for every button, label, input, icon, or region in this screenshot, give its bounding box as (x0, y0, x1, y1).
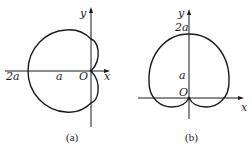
figure-a-caption: (a) (66, 131, 79, 144)
figure-b-origin-dot (188, 97, 191, 100)
figure-a-a-label: a (56, 70, 63, 83)
figure-a-y-arrow-icon (89, 7, 93, 13)
figure-a: y x O 2a a (a) (5, 7, 111, 144)
figure-b-caption: (b) (185, 131, 198, 144)
figure-b-a-label: a (179, 69, 186, 82)
diagram-canvas: y x O 2a a (a) y 2a a O x (b) (0, 0, 252, 154)
figure-b-y-label: y (177, 7, 185, 20)
figure-a-2a-label: 2a (5, 70, 20, 83)
figure-b: y 2a a O x (b) (138, 7, 248, 144)
figure-b-2a-label: 2a (174, 21, 189, 34)
figure-a-origin-dot (90, 70, 93, 73)
figure-a-x-label: x (104, 70, 111, 83)
figure-b-y-arrow-icon (187, 9, 191, 15)
figure-a-y-label: y (79, 7, 87, 20)
figure-a-origin-label: O (79, 70, 88, 83)
figure-b-x-label: x (241, 101, 248, 114)
figure-b-origin-label: O (179, 86, 188, 99)
figure-b-x-arrow-icon (238, 96, 244, 100)
